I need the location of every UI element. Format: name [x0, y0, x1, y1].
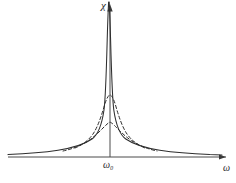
y-axis-label: χ	[101, 0, 106, 11]
narrow-resonance-curve	[8, 2, 222, 155]
resonance-susceptibility-chart: χ ω ω₀	[0, 0, 236, 183]
chart-canvas	[0, 0, 236, 183]
x-tick-label-omega-zero: ω₀	[103, 160, 114, 170]
x-axis-label: ω	[223, 163, 230, 173]
